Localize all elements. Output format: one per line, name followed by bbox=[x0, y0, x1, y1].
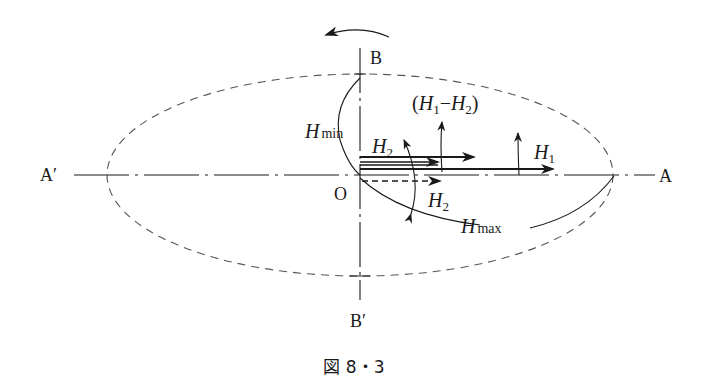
rotation-arc-h1-minus-h2 bbox=[441, 122, 442, 172]
rotation-arc-h2 bbox=[404, 140, 415, 214]
label-h-min: Hmin bbox=[304, 120, 343, 142]
label-a: A bbox=[659, 166, 672, 186]
label-h-max: Hmax bbox=[460, 215, 502, 237]
label-h1-minus-h2: (H1−H2) bbox=[412, 92, 479, 117]
label-o: O bbox=[334, 184, 347, 204]
rotating-field-diagram: A′ A B B′ O Hmin H2 (H1−H2) H1 H2 Hmax 図… bbox=[0, 0, 708, 392]
label-b-prime: B′ bbox=[350, 311, 366, 331]
rotation-arrow-icon bbox=[326, 30, 389, 37]
label-h2-lower: H2 bbox=[427, 189, 449, 214]
label-h2-upper: H2 bbox=[371, 135, 393, 160]
figure-caption: 図 8・3 bbox=[323, 357, 384, 377]
label-a-prime: A′ bbox=[40, 165, 57, 185]
label-h1: H1 bbox=[533, 141, 555, 166]
label-b: B bbox=[370, 48, 382, 68]
